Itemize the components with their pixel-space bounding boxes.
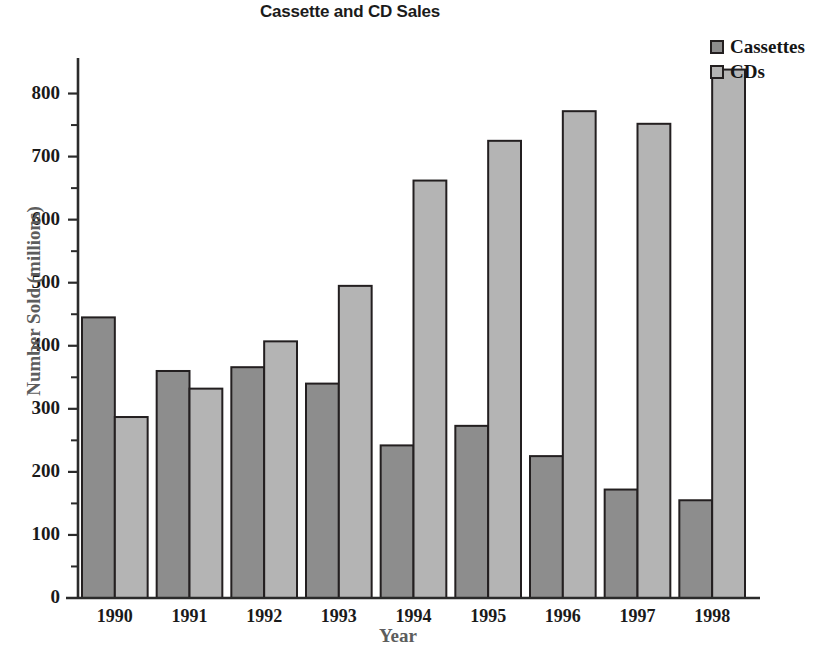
legend-item-cds[interactable]: CDs xyxy=(710,59,805,84)
bar-cds-1995 xyxy=(488,141,521,598)
bars-layer xyxy=(82,70,745,598)
x-tick-label-1997: 1997 xyxy=(620,606,656,626)
y-tick-label-0: 0 xyxy=(51,586,61,607)
x-tick-label-1994: 1994 xyxy=(396,606,432,626)
bar-chart-plot: 0100200300400500600700800 19901991199219… xyxy=(0,0,822,667)
bar-cds-1991 xyxy=(190,389,223,598)
x-tick-label-1992: 1992 xyxy=(246,606,282,626)
x-tick-label-1995: 1995 xyxy=(470,606,506,626)
legend-swatch-cds xyxy=(710,65,724,79)
chart-figure: Cassette and CD Sales 010020030040050060… xyxy=(0,0,822,667)
bar-cds-1994 xyxy=(414,181,447,598)
x-tick-label-1991: 1991 xyxy=(172,606,208,626)
bar-cds-1997 xyxy=(638,124,671,598)
x-tick-labels: 199019911992199319941995199619971998 xyxy=(97,606,730,626)
bar-cassettes-1993 xyxy=(306,384,339,598)
y-axis-title: Number Sold (millions) xyxy=(23,171,45,431)
bar-cds-1996 xyxy=(563,111,596,598)
bar-cassettes-1996 xyxy=(530,456,563,598)
legend-item-cassettes[interactable]: Cassettes xyxy=(710,34,805,59)
bar-cassettes-1990 xyxy=(82,317,115,598)
legend-label-cassettes: Cassettes xyxy=(730,36,805,58)
legend-label-cds: CDs xyxy=(730,61,765,83)
y-tick-label-800: 800 xyxy=(32,82,61,103)
bar-cds-1992 xyxy=(264,341,297,598)
y-tick-label-700: 700 xyxy=(32,145,61,166)
bar-cds-1998 xyxy=(712,70,745,598)
chart-legend: Cassettes CDs xyxy=(710,34,805,84)
x-axis-title: Year xyxy=(78,625,718,647)
bar-cds-1993 xyxy=(339,286,372,598)
bar-cassettes-1994 xyxy=(381,445,414,598)
bar-cassettes-1992 xyxy=(231,367,264,598)
y-tick-label-100: 100 xyxy=(32,523,61,544)
x-tick-label-1990: 1990 xyxy=(97,606,133,626)
x-tick-label-1993: 1993 xyxy=(321,606,357,626)
y-tick-label-200: 200 xyxy=(32,460,61,481)
bar-cassettes-1995 xyxy=(455,426,488,598)
bar-cassettes-1998 xyxy=(679,500,712,598)
bar-cds-1990 xyxy=(115,417,148,598)
bar-cassettes-1991 xyxy=(157,371,190,598)
legend-swatch-cassettes xyxy=(710,40,724,54)
bar-cassettes-1997 xyxy=(605,490,638,598)
x-tick-label-1996: 1996 xyxy=(545,606,581,626)
x-tick-label-1998: 1998 xyxy=(694,606,730,626)
